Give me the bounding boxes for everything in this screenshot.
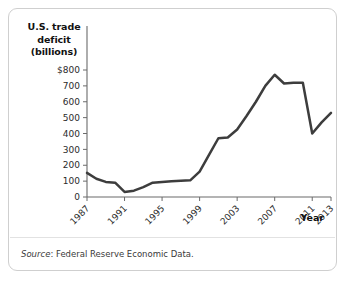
y-axis-title: U.S. trade deficit (billions) — [17, 21, 91, 59]
x-tick-label: 1987 — [68, 203, 91, 226]
x-axis-ticks: 19871991199519992003200720112013 — [68, 197, 335, 227]
x-tick-label: 1991 — [106, 203, 129, 226]
y-tick-label: 400 — [63, 129, 80, 139]
data-series-group — [87, 75, 331, 192]
y-tick-label: 100 — [63, 176, 80, 186]
axes — [87, 26, 331, 197]
y-tick-label: $800 — [57, 65, 80, 75]
x-tick-label: 2003 — [218, 203, 241, 226]
x-tick-label: 2007 — [256, 203, 279, 226]
y-tick-label: 700 — [63, 81, 80, 91]
x-axis-title: Year — [300, 212, 324, 223]
data-line-us-trade-deficit — [87, 75, 331, 192]
y-axis-title-line-2: deficit — [17, 34, 91, 47]
y-axis-title-line-1: U.S. trade — [17, 21, 91, 34]
y-tick-label: 500 — [63, 113, 80, 123]
y-axis-ticks: $8007006005004003002001000 — [57, 65, 87, 202]
figure-card: $8007006005004003002001000 1987199119951… — [8, 8, 337, 271]
y-tick-label: 300 — [63, 145, 80, 155]
source-label: Source — [21, 249, 50, 259]
y-tick-label: 0 — [74, 192, 80, 202]
y-axis-title-line-3: (billions) — [17, 46, 91, 59]
x-tick-label: 1995 — [143, 203, 166, 226]
y-tick-label: 200 — [63, 160, 80, 170]
y-tick-label: 600 — [63, 97, 80, 107]
source-divider — [10, 237, 335, 238]
x-tick-label: 1999 — [181, 203, 204, 226]
source-text: : Federal Reserve Economic Data. — [50, 249, 193, 259]
source-note: Source: Federal Reserve Economic Data. — [21, 249, 194, 259]
chart-plot-area: $8007006005004003002001000 1987199119951… — [9, 9, 338, 234]
